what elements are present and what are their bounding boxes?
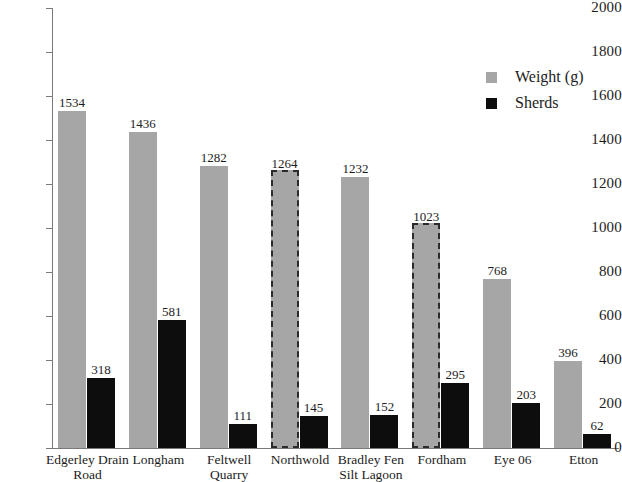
- y-axis-tick-label: 1400: [578, 132, 622, 147]
- y-axis-tick-label: 800: [578, 264, 622, 279]
- legend-label: Weight (g): [515, 69, 583, 85]
- bar-sherds: 318: [87, 378, 115, 448]
- legend-swatch-weight: [486, 72, 497, 83]
- bar-sherds: 581: [158, 320, 186, 448]
- bar-value-label: 295: [446, 368, 466, 381]
- legend-swatch-sherds: [486, 98, 497, 109]
- y-axis-tick-label: 200: [578, 396, 622, 411]
- bar-value-label: 1436: [130, 117, 156, 130]
- bar-value-label: 768: [487, 264, 507, 277]
- y-axis-line: [52, 8, 53, 449]
- category-label-line: Road: [46, 467, 129, 482]
- bar-value-label: 318: [91, 363, 111, 376]
- y-axis-tick-mark: [46, 448, 52, 449]
- y-axis-tick-mark: [46, 404, 52, 405]
- bar-value-label: 1282: [201, 151, 227, 164]
- chart-legend: Weight (g)Sherds: [486, 64, 583, 116]
- bar-value-label: 396: [558, 346, 578, 359]
- category-label-line: Etton: [542, 452, 622, 467]
- bar-sherds: 295: [441, 383, 469, 448]
- bar-value-label: 111: [233, 409, 252, 422]
- y-axis-tick-mark: [46, 8, 52, 9]
- bar-value-label: 1534: [59, 96, 85, 109]
- bar-sherds: 145: [300, 416, 328, 448]
- legend-label: Sherds: [515, 95, 559, 111]
- bar-value-label: 1264: [272, 157, 298, 170]
- bar-weight: 768: [483, 279, 511, 448]
- y-axis-tick-label: 1800: [578, 44, 622, 59]
- x-axis-category-label: Etton: [542, 452, 622, 467]
- bar-weight: 396: [554, 361, 582, 448]
- bar-sherds: 62: [583, 434, 611, 448]
- y-axis-tick-label: 2000: [578, 0, 622, 15]
- bar-sherds: 152: [370, 415, 398, 448]
- y-axis-tick-mark: [46, 360, 52, 361]
- bar-value-label: 145: [304, 401, 324, 414]
- y-axis-tick-mark: [46, 52, 52, 53]
- legend-item: Sherds: [486, 90, 583, 116]
- bar-value-label: 152: [375, 400, 395, 413]
- bar-value-label: 581: [162, 305, 182, 318]
- bar-weight: 1232: [341, 177, 369, 448]
- bar-value-label: 62: [591, 419, 604, 432]
- category-label-line: Silt Lagoon: [330, 467, 413, 482]
- x-axis-line: [52, 448, 619, 449]
- bar-weight: 1023: [412, 223, 440, 448]
- bar-sherds: 111: [229, 424, 257, 448]
- bar-value-label: 1023: [413, 210, 439, 223]
- bar-value-label: 1232: [342, 162, 368, 175]
- bar-weight: 1534: [58, 111, 86, 448]
- category-label-line: Quarry: [188, 467, 271, 482]
- bar-weight: 1436: [129, 132, 157, 448]
- y-axis-tick-label: 1600: [578, 88, 622, 103]
- y-axis-tick-mark: [46, 272, 52, 273]
- y-axis-tick-label: 1200: [578, 176, 622, 191]
- bar-weight: 1282: [200, 166, 228, 448]
- y-axis-tick-label: 1000: [578, 220, 622, 235]
- y-axis-tick-mark: [46, 316, 52, 317]
- y-axis-tick-mark: [46, 140, 52, 141]
- y-axis-tick-mark: [46, 228, 52, 229]
- y-axis-tick-mark: [46, 96, 52, 97]
- bar-weight: 1264: [271, 170, 299, 448]
- bar-sherds: 203: [512, 403, 540, 448]
- bar-value-label: 203: [516, 388, 536, 401]
- y-axis-tick-mark: [46, 184, 52, 185]
- legend-item: Weight (g): [486, 64, 583, 90]
- y-axis-tick-label: 400: [578, 352, 622, 367]
- y-axis-tick-label: 600: [578, 308, 622, 323]
